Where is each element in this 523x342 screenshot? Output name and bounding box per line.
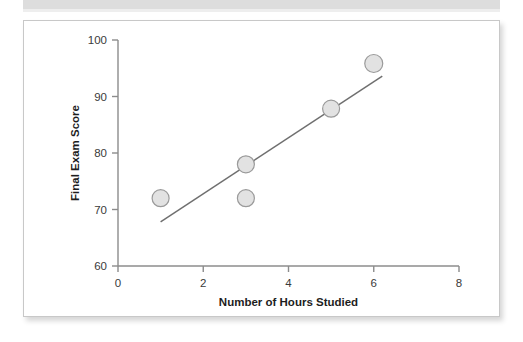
data-point (323, 100, 340, 117)
x-tick-label-0: 0 (115, 277, 121, 289)
y-axis-ticks (112, 40, 118, 266)
trend-line (161, 76, 383, 222)
y-tick-label-100: 100 (88, 34, 107, 46)
data-point (237, 156, 254, 173)
y-axis-title: Final Exam Score (69, 105, 81, 201)
x-tick-label-2: 2 (200, 277, 206, 289)
data-point (152, 190, 169, 207)
page-root: 100 90 80 70 60 0 2 4 6 8 (0, 0, 523, 342)
data-points (152, 55, 383, 207)
y-tick-label-60: 60 (94, 260, 107, 272)
x-tick-label-4: 4 (285, 277, 292, 289)
x-tick-label-6: 6 (371, 277, 377, 289)
figure-card: 100 90 80 70 60 0 2 4 6 8 (23, 20, 500, 317)
y-tick-label-80: 80 (94, 147, 107, 159)
chart-canvas: 100 90 80 70 60 0 2 4 6 8 (24, 21, 501, 318)
data-point (365, 55, 383, 73)
y-tick-label-90: 90 (94, 91, 107, 103)
x-axis-title: Number of Hours Studied (219, 296, 358, 308)
scatter-plot: 100 90 80 70 60 0 2 4 6 8 (24, 21, 501, 318)
x-tick-label-8: 8 (456, 277, 462, 289)
page-top-band (23, 0, 500, 9)
data-point (237, 190, 254, 207)
x-axis-ticks (118, 266, 459, 272)
page-top-band-fade (23, 9, 500, 12)
y-tick-label-70: 70 (94, 204, 107, 216)
